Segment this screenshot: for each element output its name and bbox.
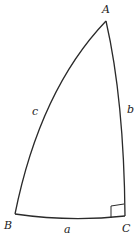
side-c-arc (15, 21, 106, 214)
vertex-label-a: A (101, 3, 110, 16)
side-b-arc (106, 21, 125, 216)
vertex-label-c: C (122, 222, 131, 235)
side-label-b: b (127, 103, 134, 116)
side-label-a: a (64, 223, 71, 236)
side-a-arc (15, 214, 125, 219)
spherical-triangle-diagram: A B C a b c (0, 0, 138, 236)
vertex-label-b: B (3, 219, 12, 232)
side-label-c: c (32, 105, 38, 118)
